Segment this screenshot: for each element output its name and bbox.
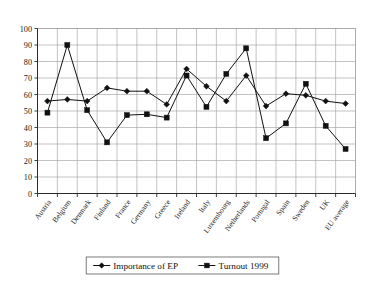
- y-tick-label-70: 70: [24, 74, 32, 83]
- data-point-turnout-1999-4: [124, 113, 129, 118]
- data-point-turnout-1999-8: [204, 104, 209, 109]
- y-tick-label-30: 30: [24, 140, 32, 149]
- data-point-turnout-1999-5: [144, 112, 149, 117]
- data-point-importance-of-ep-11: [263, 103, 269, 109]
- y-tick-label-20: 20: [24, 157, 32, 166]
- x-tick-label-finland: Finland: [92, 198, 113, 222]
- chart-legend: Importance of EPTurnout 1999: [86, 257, 279, 274]
- x-tick-label-uk: UK: [318, 197, 332, 212]
- x-tick-label-italy: Italy: [197, 198, 213, 215]
- data-point-importance-of-ep-4: [124, 88, 130, 94]
- y-tick-label-60: 60: [24, 91, 32, 100]
- data-point-turnout-1999-10: [244, 46, 249, 51]
- y-tick-label-10: 10: [24, 173, 32, 182]
- x-tick-label-spain: Spain: [274, 198, 292, 217]
- data-point-turnout-1999-15: [343, 146, 348, 151]
- y-tick-label-90: 90: [24, 41, 32, 50]
- x-axis-tick-marks: [38, 194, 356, 198]
- data-point-importance-of-ep-0: [45, 98, 51, 104]
- data-point-turnout-1999-12: [283, 121, 288, 126]
- data-point-importance-of-ep-5: [144, 88, 150, 94]
- data-point-turnout-1999-11: [264, 136, 269, 141]
- y-axis-tick-labels: 0102030405060708090100: [20, 25, 32, 199]
- x-tick-label-france: France: [113, 197, 133, 220]
- data-point-importance-of-ep-1: [64, 97, 70, 103]
- data-point-importance-of-ep-12: [283, 91, 289, 97]
- legend-label-importance-of-ep: Importance of EP: [113, 261, 178, 271]
- x-tick-label-germany: Germany: [129, 198, 153, 226]
- x-tick-label-denmark: Denmark: [69, 198, 93, 226]
- data-point-turnout-1999-14: [323, 123, 328, 128]
- x-tick-label-sweden: Sweden: [290, 198, 312, 223]
- x-tick-label-greece: Greece: [152, 197, 172, 220]
- data-point-turnout-1999-7: [184, 73, 189, 78]
- data-point-turnout-1999-1: [65, 43, 70, 48]
- data-point-importance-of-ep-15: [343, 101, 349, 107]
- x-tick-label-portugal: Portugal: [249, 198, 271, 224]
- y-tick-label-100: 100: [20, 25, 32, 34]
- x-axis-tick-labels: AustriaBelgiumDenmarkFinlandFranceGerman…: [33, 197, 352, 234]
- y-tick-label-0: 0: [28, 190, 32, 199]
- line-chart: 0102030405060708090100 AustriaBelgiumDen…: [0, 0, 365, 288]
- legend-label-turnout-1999: Turnout 1999: [218, 261, 268, 271]
- data-point-importance-of-ep-13: [303, 92, 309, 98]
- x-tick-label-ireland: Ireland: [172, 198, 192, 221]
- y-tick-label-50: 50: [24, 107, 32, 116]
- data-point-importance-of-ep-14: [323, 98, 329, 104]
- data-point-importance-of-ep-3: [104, 85, 110, 91]
- chart-container: 0102030405060708090100 AustriaBelgiumDen…: [0, 0, 365, 288]
- y-tick-label-80: 80: [24, 58, 32, 67]
- y-tick-label-40: 40: [24, 124, 32, 133]
- data-point-importance-of-ep-6: [164, 102, 170, 108]
- data-point-turnout-1999-6: [164, 115, 169, 120]
- data-point-turnout-1999-9: [224, 71, 229, 76]
- legend-marker-turnout-1999: [205, 263, 210, 268]
- data-point-turnout-1999-2: [85, 108, 90, 113]
- data-point-turnout-1999-0: [45, 110, 50, 115]
- data-point-turnout-1999-13: [303, 81, 308, 86]
- data-point-turnout-1999-3: [105, 140, 110, 145]
